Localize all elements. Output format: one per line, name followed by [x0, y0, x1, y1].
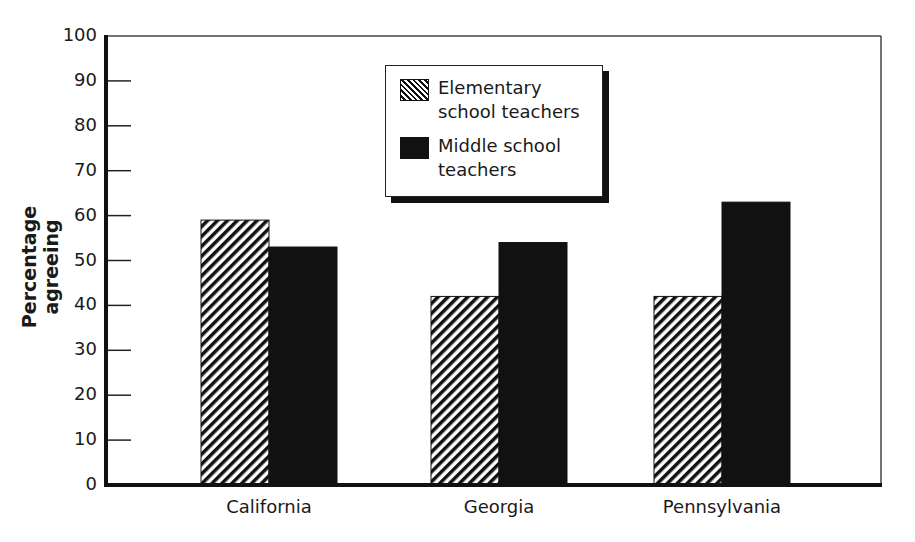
y-tick-label: 0	[37, 473, 97, 494]
bar-georgia-middle	[499, 243, 567, 485]
y-tick-label: 30	[37, 338, 97, 359]
y-tick-label: 70	[37, 159, 97, 180]
legend-label-line1: Middle school	[438, 134, 598, 158]
legend-label-line1: Elementary	[438, 76, 598, 100]
x-category-label: Pennsylvania	[642, 496, 802, 517]
bar-california-elementary	[201, 220, 269, 485]
y-tick-label: 100	[37, 24, 97, 45]
legend-label-line2: teachers	[438, 158, 598, 182]
legend-item-elementary: Elementary school teachers	[400, 76, 598, 124]
y-tick-label: 90	[37, 69, 97, 90]
bar-georgia-elementary	[431, 296, 499, 485]
bar-chart: Percentage agreeing 01020304050607080901…	[0, 0, 915, 542]
legend-label-line2: school teachers	[438, 100, 598, 124]
x-category-label: Georgia	[419, 496, 579, 517]
bar-california-middle	[269, 247, 337, 485]
y-tick-label: 50	[37, 249, 97, 270]
legend-item-middle: Middle school teachers	[400, 134, 598, 182]
bar-pennsylvania-middle	[722, 202, 790, 485]
hatched-swatch-icon	[400, 79, 429, 101]
y-tick-label: 60	[37, 204, 97, 225]
y-tick-label: 20	[37, 383, 97, 404]
y-tick-label: 10	[37, 428, 97, 449]
y-tick-label: 80	[37, 114, 97, 135]
x-category-label: California	[189, 496, 349, 517]
bar-pennsylvania-elementary	[654, 296, 722, 485]
y-tick-label: 40	[37, 293, 97, 314]
legend: Elementary school teachers Middle school…	[385, 65, 603, 197]
solid-swatch-icon	[400, 137, 429, 159]
